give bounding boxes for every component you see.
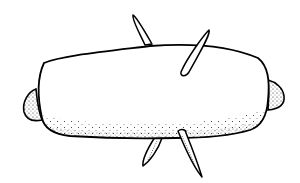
illustration: [0, 0, 300, 183]
right-end-cap: [268, 80, 284, 110]
toothpick-bottom-left: [143, 137, 162, 166]
loaf-body: [39, 45, 271, 145]
toothpick-top-left: [133, 15, 152, 45]
